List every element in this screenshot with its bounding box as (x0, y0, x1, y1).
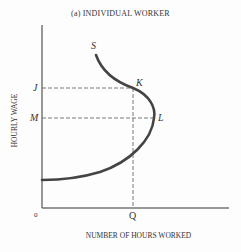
point-label-k: K (136, 77, 143, 88)
curve-label-s: S (91, 40, 96, 51)
origin-label: 0 (34, 211, 38, 219)
x-axis-label: NUMBER OF HOURS WORKED (0, 231, 241, 240)
point-label-l: L (158, 112, 164, 123)
hours-label-q: Q (129, 210, 136, 221)
wage-label-j: J (33, 82, 37, 93)
backward-bending-supply-curve (42, 55, 154, 180)
wage-label-m: M (30, 112, 38, 123)
y-axis-label: HOURLY WAGE (10, 81, 19, 161)
